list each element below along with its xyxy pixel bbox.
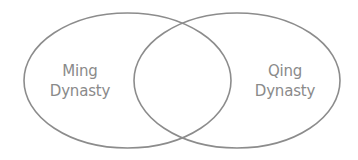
ming-dynasty-label-line2: Dynasty [28, 81, 132, 101]
ming-dynasty-label: Ming Dynasty [28, 61, 132, 101]
ming-dynasty-label-line1: Ming [28, 61, 132, 81]
qing-dynasty-label-line2: Dynasty [233, 81, 337, 101]
qing-dynasty-label-line1: Qing [233, 61, 337, 81]
qing-dynasty-label: Qing Dynasty [233, 61, 337, 101]
